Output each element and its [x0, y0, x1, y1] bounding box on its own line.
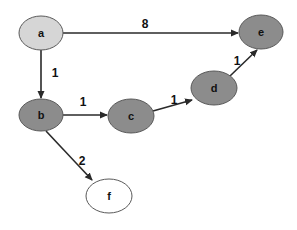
edge-a-b: 1: [41, 50, 59, 98]
edge-weight-label: 8: [142, 17, 149, 31]
nodes-layer: abcdef: [19, 15, 283, 213]
node-a: a: [19, 16, 63, 50]
node-f: f: [86, 179, 132, 213]
node-c: c: [108, 99, 154, 133]
edge-weight-label: 1: [234, 54, 241, 68]
edge-b-c: 1: [63, 95, 107, 115]
edge-weight-label: 1: [171, 93, 178, 107]
node-label: e: [258, 26, 264, 38]
edge-weight-label: 2: [79, 154, 86, 168]
graph-diagram: 811112 abcdef: [0, 0, 297, 230]
edge-c-d: 1: [153, 93, 192, 111]
edge-weight-label: 1: [52, 66, 59, 80]
node-e: e: [239, 15, 283, 49]
node-label: b: [38, 109, 45, 121]
edge-d-e: 1: [230, 50, 257, 76]
node-d: d: [191, 71, 237, 105]
edge-b-f: 2: [46, 131, 92, 180]
node-label: a: [38, 27, 45, 39]
node-label: f: [107, 190, 111, 202]
node-b: b: [19, 99, 63, 131]
node-label: d: [211, 82, 218, 94]
node-label: c: [128, 110, 134, 122]
edge-a-e: 8: [63, 17, 238, 33]
edge-weight-label: 1: [80, 95, 87, 109]
